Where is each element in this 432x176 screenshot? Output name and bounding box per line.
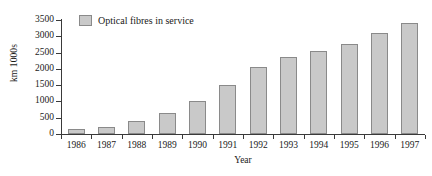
y-axis-tick-label-text: 3500 — [2, 15, 54, 25]
x-axis-tick — [182, 135, 183, 139]
x-axis-label-1987: 1987 — [91, 140, 121, 151]
x-axis-label-1995: 1995 — [334, 140, 364, 151]
x-axis-label-1988: 1988 — [122, 140, 152, 151]
y-axis-tick-label: 1000 — [0, 96, 54, 106]
x-axis-label-1992: 1992 — [243, 140, 273, 151]
y-axis-tick-label: 500 — [0, 113, 54, 123]
x-axis-tick — [334, 135, 335, 139]
legend-label-optical-fibres: Optical fibres in service — [98, 15, 194, 26]
bar-1996 — [371, 33, 388, 134]
x-axis-label-1986: 1986 — [61, 140, 91, 151]
bar-1991 — [219, 85, 236, 134]
x-axis-label-1994: 1994 — [304, 140, 334, 151]
x-axis-tick — [122, 135, 123, 139]
y-axis-tick-label-text: 1000 — [2, 96, 54, 106]
legend-swatch-optical-fibres — [79, 15, 92, 26]
x-axis-tick — [425, 135, 426, 139]
y-axis-tick-label-text: 3000 — [2, 31, 54, 41]
x-axis-tick — [395, 135, 396, 139]
x-axis-tick — [61, 135, 62, 139]
bar-chart: km 1000s 0500100015002000250030003500 19… — [0, 0, 432, 176]
y-axis-tick-label: 0 — [0, 129, 54, 139]
y-axis-tick-label-text: 0 — [2, 129, 54, 139]
x-axis-tick — [364, 135, 365, 139]
bar-1989 — [159, 113, 176, 134]
chart-legend: Optical fibres in service — [79, 15, 194, 26]
bar-1986 — [68, 129, 85, 134]
y-axis-tick-label: 2500 — [0, 48, 54, 58]
x-axis-label-1989: 1989 — [152, 140, 182, 151]
y-axis-tick-label-text: 2500 — [2, 48, 54, 58]
bar-1987 — [98, 127, 115, 134]
plot-area — [61, 16, 425, 134]
y-axis-tick-label: 3500 — [0, 15, 54, 25]
x-axis-label-1997: 1997 — [395, 140, 425, 151]
x-axis-tick — [91, 135, 92, 139]
x-axis-label-1990: 1990 — [182, 140, 212, 151]
bar-1997 — [401, 23, 418, 134]
bar-1993 — [280, 57, 297, 134]
y-axis-tick-label: 1500 — [0, 80, 54, 90]
bar-1995 — [341, 44, 358, 134]
x-axis-tick — [304, 135, 305, 139]
x-axis-label-1991: 1991 — [213, 140, 243, 151]
x-axis-tick — [152, 135, 153, 139]
x-axis-label-1996: 1996 — [364, 140, 394, 151]
y-axis-tick-label-text: 500 — [2, 113, 54, 123]
x-axis-label-1993: 1993 — [273, 140, 303, 151]
bar-1994 — [310, 51, 327, 134]
bar-1988 — [128, 121, 145, 134]
y-axis-tick-label: 3000 — [0, 31, 54, 41]
x-axis-tick — [243, 135, 244, 139]
bar-1990 — [189, 101, 206, 134]
y-axis-tick-label-text: 1500 — [2, 80, 54, 90]
x-axis-tick — [273, 135, 274, 139]
x-axis-title: Year — [61, 155, 425, 165]
y-axis-tick-label-text: 2000 — [2, 64, 54, 74]
x-axis-tick — [213, 135, 214, 139]
bar-1992 — [250, 67, 267, 134]
y-axis-tick-label: 2000 — [0, 64, 54, 74]
